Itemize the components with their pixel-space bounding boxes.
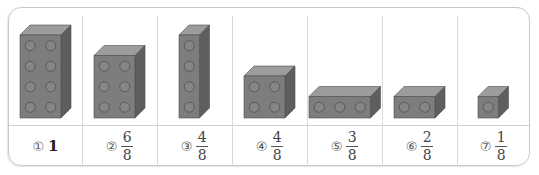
stud-icon [99,82,109,92]
stud-icon [420,102,430,112]
stud-icon [120,82,130,92]
stud-icon [184,41,194,51]
stud-icon [46,61,56,71]
fraction: 38 [346,130,358,163]
stud-icon [25,41,35,51]
fraction-denominator: 8 [273,148,282,163]
stud-icon [25,82,35,92]
stud-icon [46,82,56,92]
fraction-denominator: 8 [198,148,207,163]
option-label-4[interactable]: ④48 [232,126,307,166]
fraction-denominator: 8 [423,148,432,163]
stud-icon [46,102,56,112]
stud-icon [270,102,280,112]
option-marker: ⑥ [406,139,418,154]
stud-icon [184,61,194,71]
stud-icon [249,82,259,92]
option-label-3[interactable]: ③48 [157,126,232,166]
fraction: 18 [495,130,507,163]
option-label-7[interactable]: ⑦18 [457,126,530,166]
stud-icon [25,102,35,112]
option-marker: ② [106,139,118,154]
fraction-denominator: 8 [497,148,506,163]
option-label-2[interactable]: ②68 [82,126,157,166]
fraction: 48 [196,130,208,163]
stud-icon [25,61,35,71]
fraction: 28 [421,130,433,163]
stud-icon [120,102,130,112]
stud-icon [399,102,409,112]
fraction-denominator: 8 [123,148,132,163]
option-label-6[interactable]: ⑥28 [382,126,457,166]
brick-block-option-7 [0,0,1,1]
fraction-numerator: 4 [273,130,282,145]
option-marker: ④ [256,139,268,154]
option-label-1[interactable]: ①1 [9,126,82,166]
stud-icon [99,61,109,71]
stud-icon [483,102,493,112]
stud-icon [120,61,130,71]
option-marker: ③ [181,139,193,154]
stud-icon [270,82,280,92]
fraction-numerator: 4 [198,130,207,145]
fraction-numerator: 6 [123,130,132,145]
fraction: 68 [121,130,133,163]
stud-icon [335,102,345,112]
option-marker: ⑤ [331,139,343,154]
option-label-5[interactable]: ⑤38 [307,126,382,166]
stud-icon [355,102,365,112]
stud-icon [314,102,324,112]
fraction-numerator: 1 [497,130,506,145]
option-value: 1 [48,137,58,155]
fraction-denominator: 8 [348,148,357,163]
option-marker: ① [32,139,44,154]
fraction: 48 [271,130,283,163]
stud-icon [184,102,194,112]
fraction-numerator: 2 [423,130,432,145]
option-marker: ⑦ [480,139,492,154]
stud-icon [99,102,109,112]
fraction-numerator: 3 [348,130,357,145]
stud-icon [46,41,56,51]
stud-icon [184,82,194,92]
stud-icon [249,102,259,112]
